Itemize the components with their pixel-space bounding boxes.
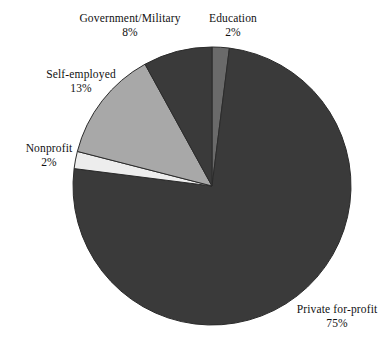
- pie-label-government-military-name: Government/Military: [56, 12, 204, 26]
- pie-label-self-employed-value: 13%: [20, 82, 142, 96]
- pie-label-nonprofit-value: 2%: [2, 156, 96, 170]
- pie-label-nonprofit-name: Nonprofit: [2, 142, 96, 156]
- pie-label-education: Education 2%: [186, 12, 280, 39]
- pie-label-self-employed-name: Self-employed: [20, 68, 142, 82]
- pie-label-private-for-profit-name: Private for-profit: [284, 303, 390, 317]
- pie-label-education-name: Education: [186, 12, 280, 26]
- pie-label-self-employed: Self-employed 13%: [20, 68, 142, 95]
- pie-label-government-military-value: 8%: [56, 26, 204, 40]
- pie-label-private-for-profit-value: 75%: [284, 317, 390, 331]
- pie-label-government-military: Government/Military 8%: [56, 12, 204, 39]
- pie-label-nonprofit: Nonprofit 2%: [2, 142, 96, 169]
- pie-chart-figure: Government/Military 8% Education 2% Self…: [0, 0, 390, 344]
- pie-label-private-for-profit: Private for-profit 75%: [284, 303, 390, 330]
- pie-chart-canvas: [0, 0, 390, 344]
- pie-label-education-value: 2%: [186, 26, 280, 40]
